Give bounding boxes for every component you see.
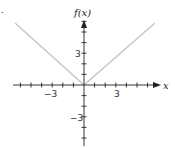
x-tick-label-pos3: 3 [114,89,120,99]
y-tick-label-neg3: −3 [70,113,83,123]
x-tick-label-neg3: −3 [44,89,57,99]
x-axis-arrow-icon [153,82,161,88]
corner-mark: . [1,5,4,15]
y-axis-label: f(x) [73,7,91,18]
y-tick-label-pos3: 3 [75,49,81,59]
x-axis-label: x [163,80,169,91]
chart-canvas: . f(x) x −3 3 3 −3 [0,0,175,148]
